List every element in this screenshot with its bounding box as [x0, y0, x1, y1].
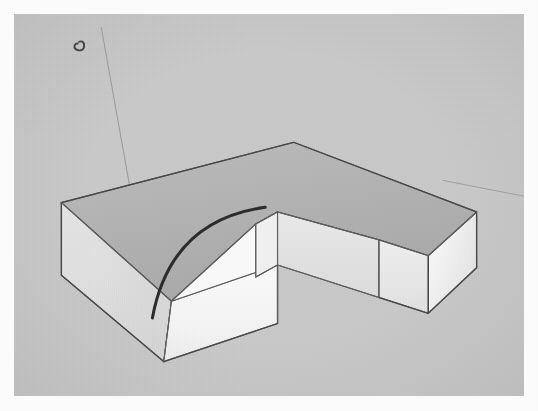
3d-scene[interactable]	[14, 14, 524, 396]
screenshot-root: 3D Modeling Viewport Photographed screen…	[0, 0, 538, 411]
3d-viewport[interactable]	[14, 14, 524, 396]
frame-caption: Photographed screen capture of a 3D mode…	[0, 16, 1, 17]
page-title: 3D Modeling Viewport	[0, 21, 1, 22]
